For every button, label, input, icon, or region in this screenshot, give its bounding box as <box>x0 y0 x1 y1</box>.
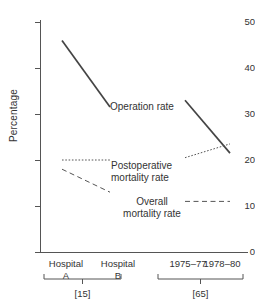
group-brackets <box>0 0 255 307</box>
group-tag-hospital-panel: [15] <box>53 288 113 299</box>
group-tag-period-panel: [65] <box>171 288 231 299</box>
chart-container: Percentage 01020304050 Operation rate Po… <box>0 0 255 307</box>
